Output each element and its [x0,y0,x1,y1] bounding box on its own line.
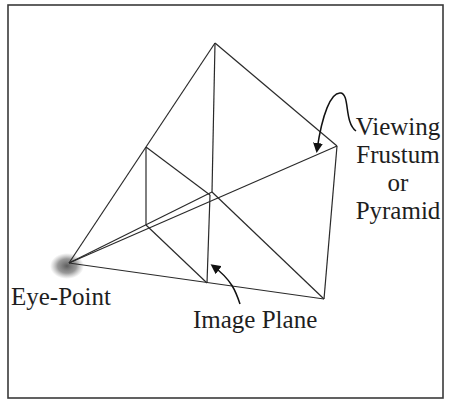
base-top-to-right [215,43,337,146]
ray-eye-to-right [69,146,337,263]
base-back-to-bottom [212,192,324,299]
ray-eye-to-back [69,192,212,263]
image-plane-top-edge [146,147,210,195]
eye-point-label: Eye-Point [11,283,111,311]
image-plane-right-edge [207,195,210,283]
frustum-pointer-arrow [317,93,356,150]
frustum-label-line-1: Viewing [353,113,443,141]
frustum-label-line-2: Frustum [353,141,443,169]
ray-eye-to-top [69,43,215,263]
frustum-label-line-3: or [353,169,443,197]
image-plane-bottom-edge [146,225,207,283]
eye-point-marker [50,253,84,279]
frustum-edges [69,43,337,299]
image-plane-label: Image Plane [193,306,317,334]
frustum-label: Viewing Frustum or Pyramid [353,113,443,225]
frustum-label-line-4: Pyramid [353,197,443,225]
base-right-to-bottom [324,146,337,299]
base-top-to-back [212,43,215,192]
